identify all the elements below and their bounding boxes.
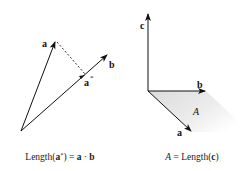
label-b-right: b: [197, 79, 203, 90]
label-c: c: [140, 20, 145, 31]
left-projection-diagram: a b a * Length(a*) = a · b: [21, 38, 115, 163]
right-cross-product-diagram: c b a A A = Length(c): [140, 14, 250, 163]
label-a-star: a: [84, 77, 89, 88]
label-a-right: a: [177, 127, 182, 138]
label-b: b: [109, 59, 115, 70]
vector-b-arrow: [21, 55, 107, 131]
projection-dashed-line: [57, 42, 85, 74]
label-a: a: [42, 38, 47, 49]
left-caption: Length(a*) = a · b: [25, 151, 94, 163]
right-caption: A = Length(c): [164, 152, 218, 163]
vector-a-arrow: [21, 42, 55, 131]
label-a-star-sup: *: [90, 74, 94, 82]
label-area-A: A: [192, 106, 200, 117]
vector-diagram-canvas: a b a * Length(a*) = a · b c b a A A = L…: [0, 0, 250, 171]
